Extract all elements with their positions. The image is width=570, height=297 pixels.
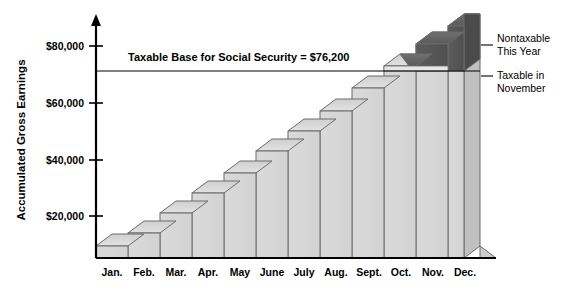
x-label-feb: Feb. — [133, 266, 155, 278]
chart-canvas: $80,000 $60,000 $40,000 $20,000 Accumula… — [0, 0, 570, 297]
x-label-nov: Nov. — [422, 266, 444, 278]
x-label-sept: Sept. — [356, 266, 382, 278]
x-label-apr: Apr. — [198, 266, 219, 278]
y-axis-arrowhead — [91, 14, 101, 26]
taxable-label-line1: Taxable in — [497, 69, 544, 81]
nontaxable-label-line1: Nontaxable — [497, 32, 550, 44]
x-label-jan: Jan. — [101, 266, 122, 278]
y-tick-label-40000: $40,000 — [46, 154, 84, 166]
nontaxable-label-line2: This Year — [497, 45, 541, 57]
x-label-oct: Oct. — [391, 266, 412, 278]
y-tick-label-20000: $20,000 — [46, 210, 84, 222]
x-axis-labels-group: Jan. Feb. Mar. Apr. May June July Aug. S… — [101, 266, 476, 278]
taxable-label-line2: November — [497, 82, 546, 94]
y-tick-label-80000: $80,000 — [46, 40, 84, 52]
x-label-may: May — [230, 266, 251, 278]
x-label-july: July — [293, 266, 314, 278]
x-label-aug: Aug. — [324, 266, 347, 278]
x-label-dec: Dec. — [454, 266, 476, 278]
nontaxable-segment-dec[interactable] — [448, 14, 480, 71]
y-tick-label-60000: $60,000 — [46, 97, 84, 109]
x-label-june: June — [260, 266, 285, 278]
side-callouts-group: Nontaxable This Year Taxable in November — [481, 32, 550, 94]
y-axis-title: Accumulated Gross Earnings — [15, 59, 27, 220]
taxable-november-band[interactable] — [384, 66, 448, 71]
threshold-annotation-label: Taxable Base for Social Security = $76,2… — [128, 51, 349, 63]
y-axis-group: $80,000 $60,000 $40,000 $20,000 Accumula… — [15, 14, 103, 258]
x-label-mar: Mar. — [165, 266, 186, 278]
accumulated-gross-earnings-chart: $80,000 $60,000 $40,000 $20,000 Accumula… — [0, 0, 570, 297]
